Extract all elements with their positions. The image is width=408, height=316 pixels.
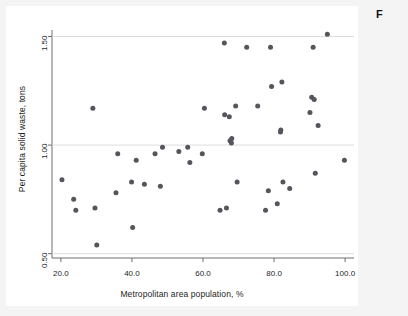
y-tick-label-1: 1.00: [40, 144, 49, 178]
y-tick-label-2: 1.50: [40, 35, 49, 69]
data-point: [263, 208, 268, 213]
x-tick-label-2: 60.0: [195, 269, 211, 278]
data-point: [244, 45, 249, 50]
x-tick-label-1: 40.0: [124, 269, 140, 278]
data-point: [158, 184, 163, 189]
data-point: [312, 97, 317, 102]
data-point: [142, 182, 147, 187]
x-tick-label-0: 20.0: [53, 269, 69, 278]
data-point: [229, 140, 234, 145]
data-point: [280, 180, 285, 185]
data-point: [316, 123, 321, 128]
scatter-plot-svg: [6, 6, 358, 306]
data-point: [229, 136, 234, 141]
data-point: [278, 127, 283, 132]
data-point: [222, 41, 227, 46]
data-point: [255, 104, 260, 109]
data-point: [307, 110, 312, 115]
x-tick-marks: [61, 258, 345, 262]
x-axis-label: Metropolitan area population, %: [6, 289, 358, 299]
data-point: [129, 180, 134, 185]
data-point: [266, 188, 271, 193]
figure-container: Per capita solid waste, tons Metropolita…: [0, 0, 408, 316]
data-point: [71, 197, 76, 202]
data-point: [279, 80, 284, 85]
plot-frame: [52, 30, 354, 258]
caption-fragment: F: [376, 8, 383, 20]
data-point: [224, 206, 229, 211]
data-point: [233, 104, 238, 109]
x-tick-label-4: 100.0: [335, 269, 355, 278]
data-point: [325, 32, 330, 37]
data-point: [92, 206, 97, 211]
data-point: [218, 208, 223, 213]
data-point: [311, 45, 316, 50]
data-point: [130, 225, 135, 230]
data-point: [269, 84, 274, 89]
figure-right-margin: [358, 0, 408, 316]
data-point: [90, 106, 95, 111]
x-tick-label-3: 80.0: [266, 269, 282, 278]
data-point: [235, 180, 240, 185]
data-point: [73, 208, 78, 213]
y-tick-marks: [48, 37, 52, 254]
data-points-group: [59, 32, 346, 248]
y-axis-label: Per capita solid waste, tons: [17, 79, 27, 199]
y-tick-label-0: 0.50: [40, 252, 49, 286]
data-point: [113, 190, 118, 195]
data-point: [268, 45, 273, 50]
data-point: [202, 106, 207, 111]
data-point: [94, 242, 99, 247]
gridlines: [52, 37, 354, 254]
data-point: [134, 158, 139, 163]
data-point: [187, 160, 192, 165]
data-point: [153, 151, 158, 156]
data-point: [176, 149, 181, 154]
data-point: [115, 151, 120, 156]
data-point: [313, 171, 318, 176]
data-point: [59, 177, 64, 182]
data-point: [342, 158, 347, 163]
data-point: [185, 145, 190, 150]
data-point: [275, 201, 280, 206]
data-point: [160, 145, 165, 150]
data-point: [200, 151, 205, 156]
scatter-plot-canvas: Per capita solid waste, tons Metropolita…: [6, 6, 358, 306]
data-point: [222, 112, 227, 117]
data-point: [227, 114, 232, 119]
data-point: [287, 186, 292, 191]
